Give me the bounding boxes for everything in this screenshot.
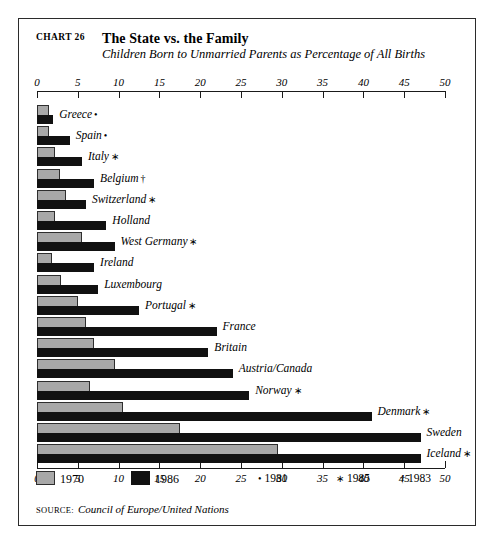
country-label: Iceland∗ — [427, 447, 471, 459]
bar-1986 — [37, 348, 208, 357]
bar-1986 — [37, 433, 421, 442]
bar-group: Sweden — [19, 423, 459, 444]
footnote-marker: ∗ — [292, 385, 302, 396]
axis-tick — [78, 91, 79, 98]
footnote-marker: ∗ — [186, 300, 196, 311]
axis-tick-label: 15 — [146, 76, 172, 88]
bar-group: Holland — [19, 211, 459, 232]
source-text: Council of Europe/United Nations — [74, 503, 229, 515]
bar-1986 — [37, 285, 98, 294]
bar-1986 — [37, 454, 421, 463]
bar-group: Iceland∗ — [19, 444, 459, 465]
legend-label: 1986 — [155, 472, 179, 487]
bar-1986 — [37, 115, 53, 124]
country-label: Holland — [112, 214, 150, 226]
legend-note-symbol: • — [258, 473, 265, 484]
bar-group: Spain• — [19, 126, 459, 147]
bar-1986 — [37, 157, 82, 166]
legend-note: †1983 — [400, 472, 431, 484]
country-label: Switzerland∗ — [92, 193, 156, 205]
bar-1986 — [37, 200, 86, 209]
legend-label: 1970 — [60, 472, 84, 487]
axis-tick — [282, 91, 283, 98]
legend-note-symbol: † — [400, 473, 408, 484]
bar-group: Belgium† — [19, 169, 459, 190]
country-label: Ireland — [100, 256, 133, 268]
country-label: Greece• — [59, 108, 97, 120]
bar-group: Luxembourg — [19, 275, 459, 296]
country-label: Belgium† — [100, 172, 145, 184]
bar-group: Britain — [19, 338, 459, 359]
bar-1986 — [37, 369, 233, 378]
axis-tick-label: 40 — [350, 76, 376, 88]
bar-group: Portugal∗ — [19, 296, 459, 317]
country-label: Britain — [214, 341, 247, 353]
bar-group: Austria/Canada — [19, 359, 459, 380]
country-label: West Germany∗ — [121, 235, 198, 247]
bar-group: Denmark∗ — [19, 402, 459, 423]
country-label: Portugal∗ — [145, 299, 196, 311]
axis-tick — [363, 91, 364, 98]
black-swatch — [131, 471, 150, 485]
footnote-marker: ∗ — [146, 194, 156, 205]
axis-tick-label: 0 — [24, 76, 50, 88]
source-label: Source: — [36, 505, 74, 515]
plot-area: 0510152025303540455005101520253035404550… — [19, 19, 477, 527]
country-label: Luxembourg — [104, 278, 162, 290]
footnote-marker: † — [138, 173, 145, 184]
country-label: Denmark∗ — [378, 405, 431, 417]
bar-group: Italy∗ — [19, 147, 459, 168]
bar-group: West Germany∗ — [19, 232, 459, 253]
chart-legend: 19701986•1981∗1985†1983 — [36, 470, 460, 490]
axis-tick — [119, 91, 120, 98]
legend-note: ∗1985 — [336, 472, 370, 484]
gray-swatch — [36, 471, 55, 485]
chart-frame: CHART 26 The State vs. the Family Childr… — [18, 18, 476, 526]
bar-1986 — [37, 179, 94, 188]
axis-tick-label: 25 — [228, 76, 254, 88]
axis-tick — [159, 91, 160, 98]
bar-1986 — [37, 412, 372, 421]
axis-tick-label: 30 — [269, 76, 295, 88]
legend-note-symbol: ∗ — [336, 473, 347, 484]
country-label: France — [223, 320, 256, 332]
axis-tick — [323, 91, 324, 98]
axis-tick-label: 5 — [65, 76, 91, 88]
country-label: Norway∗ — [255, 384, 301, 396]
bar-group: Norway∗ — [19, 381, 459, 402]
bar-group: Switzerland∗ — [19, 190, 459, 211]
footnote-marker: • — [102, 130, 108, 141]
bar-group: Greece• — [19, 105, 459, 126]
bar-1986 — [37, 327, 217, 336]
footnote-marker: ∗ — [187, 236, 197, 247]
axis-tick-label: 35 — [310, 76, 336, 88]
source-line: Source:Council of Europe/United Nations — [36, 503, 229, 515]
bar-1986 — [37, 221, 106, 230]
country-label: Italy∗ — [88, 150, 119, 162]
axis-tick-label: 20 — [187, 76, 213, 88]
bar-group: France — [19, 317, 459, 338]
axis-tick — [404, 91, 405, 98]
axis-tick — [445, 91, 446, 98]
footnote-marker: ∗ — [420, 406, 430, 417]
axis-tick-label: 45 — [391, 76, 417, 88]
country-label: Spain• — [76, 129, 108, 141]
country-label: Austria/Canada — [239, 362, 312, 374]
axis-tick-label: 50 — [432, 76, 458, 88]
bar-1986 — [37, 136, 70, 145]
bar-group: Ireland — [19, 253, 459, 274]
legend-note: •1981 — [258, 472, 288, 484]
axis-tick — [200, 91, 201, 98]
axis-tick — [241, 91, 242, 98]
bar-1986 — [37, 263, 94, 272]
country-label: Sweden — [427, 426, 462, 438]
bar-1986 — [37, 306, 139, 315]
axis-tick-label: 10 — [106, 76, 132, 88]
bar-1986 — [37, 242, 115, 251]
footnote-marker: ∗ — [109, 151, 119, 162]
axis-tick — [37, 91, 38, 98]
footnote-marker: ∗ — [461, 448, 471, 459]
footnote-marker: • — [92, 109, 98, 120]
bar-1986 — [37, 391, 249, 400]
